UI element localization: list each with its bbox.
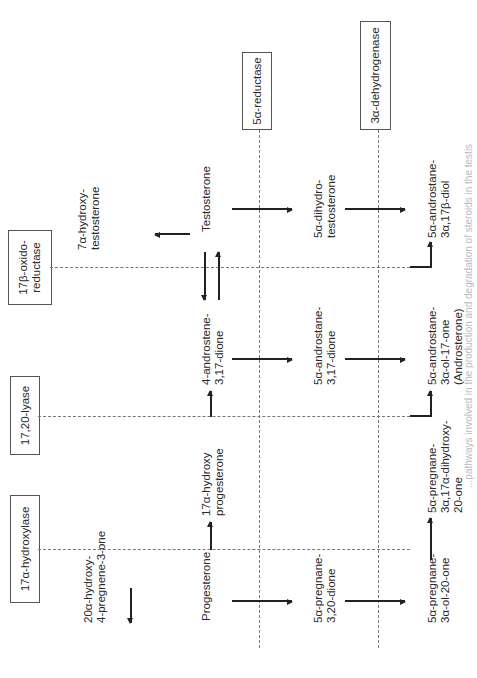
compound-5a-pregnanedione: 5α-pregnane-3,20-dione <box>312 554 338 623</box>
connector-lyase-row4 <box>410 416 430 418</box>
enzyme-box-3a-dehydrogenase: 3α-dehydrogenase <box>360 21 391 130</box>
compound-7a-hydroxytestosterone: 7α-hydroxy-testosterone <box>76 187 102 250</box>
compound-5a-pregnanolone: 5α-pregnane-3α-ol-20-one <box>426 554 452 623</box>
arrow-androstenedione-to-androstanedione <box>232 359 292 361</box>
arrow-progesterone-to-pregnanedione <box>232 601 292 603</box>
arrow-androstenedione-to-testosterone <box>218 252 220 300</box>
compound-20a-hydroxy-pregnenone: 20α-hydroxy-4-pregnene-3-one <box>82 531 108 623</box>
steroid-pathway-diagram: 17α-hydroxylase 17,20-lyase 17β-oxido- r… <box>0 0 477 678</box>
arrow-testosterone-to-7a <box>155 234 190 236</box>
arrow-androsterone-to-androstanediol <box>430 242 432 268</box>
enzyme-label: 17,20-lyase <box>19 386 32 445</box>
arrow-pregnanediol-to-androsterone <box>430 391 432 417</box>
compound-5a-pregnane-dihydroxy: 5α-pregnane-3α,17α-dihydroxy-20-one <box>426 420 465 513</box>
arrow-progesterone-to-20a <box>130 588 132 623</box>
arrow-17oh-to-androstenedione <box>210 391 212 417</box>
enzyme-label: 5α-reductase <box>251 57 264 124</box>
arrow-testosterone-to-androstenedione <box>204 252 206 300</box>
connector-oxidoreductase-row4 <box>410 267 430 269</box>
compound-androstenedione: 4-androstene-3,17-dione <box>200 313 226 385</box>
enzyme-label: reductase <box>30 242 43 293</box>
compound-androsterone: 5α-androstane-3α-ol-17-one(Androsterone) <box>426 307 465 385</box>
dashed-divider-lyase <box>38 416 410 417</box>
enzyme-label: 3α-dehydrogenase <box>369 27 382 123</box>
arrow-pregnanedione-to-pregnanolone <box>345 601 405 603</box>
arrow-pregnanolone-to-pregnanediol <box>430 518 432 560</box>
compound-testosterone: Testosterone <box>200 166 213 232</box>
enzyme-box-5a-reductase: 5α-reductase <box>242 52 272 130</box>
arrow-dht-to-androstanediol <box>345 209 405 211</box>
enzyme-box-17a-hydroxylase: 17α-hydroxylase <box>10 495 40 603</box>
arrow-progesterone-to-17oh <box>210 522 212 550</box>
enzyme-label: 17β-oxido- <box>17 240 30 295</box>
figure-caption: ...pathways involved in the production a… <box>463 144 474 488</box>
enzyme-label: 17α-hydroxylase <box>19 507 32 592</box>
compound-progesterone: Progesterone <box>200 552 213 621</box>
compound-5a-androstanediol: 5α-androstane-3α,17β-diol <box>426 160 452 238</box>
enzyme-box-17b-oxidoreductase: 17β-oxido- reductase <box>8 230 52 305</box>
dashed-divider-oxidoreductase <box>50 267 410 268</box>
compound-dihydrotestosterone: 5α-dihydro-testosterone <box>312 175 338 238</box>
compound-5a-androstanedione: 5α-androstane-3,17-dione <box>312 307 338 385</box>
compound-17a-hydroxyprogesterone: 17α-hydroxyprogesterone <box>200 448 226 516</box>
enzyme-box-17-20-lyase: 17,20-lyase <box>10 376 40 455</box>
arrow-testosterone-to-dht <box>232 209 292 211</box>
arrow-androstanedione-to-androsterone <box>345 359 405 361</box>
